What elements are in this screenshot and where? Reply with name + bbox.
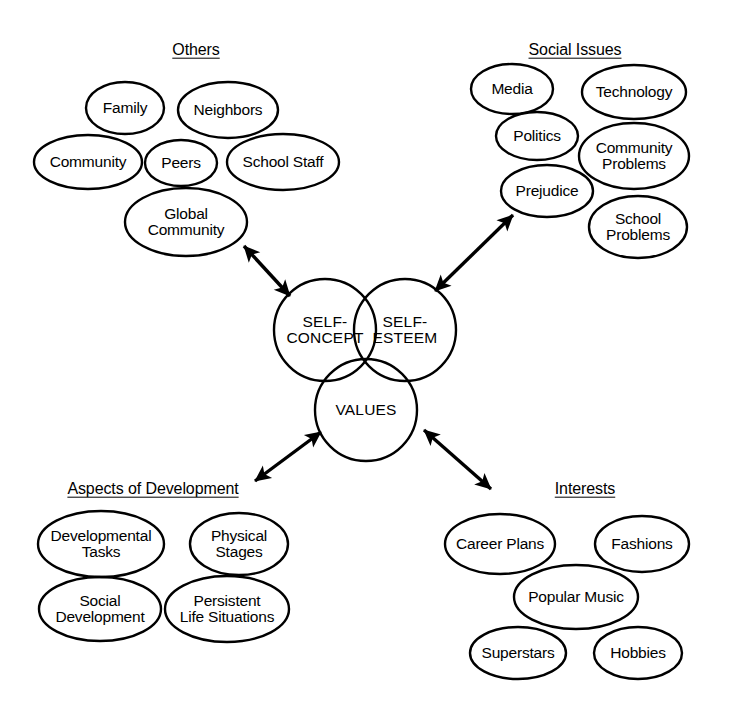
node-ellipse-neighbors[interactable] — [178, 82, 278, 138]
node-ellipse-school-problems[interactable] — [589, 196, 687, 258]
node-ellipse-career-plans[interactable] — [445, 514, 555, 574]
node-ellipse-fashions[interactable] — [595, 516, 689, 572]
node-ellipse-social-development[interactable] — [39, 577, 161, 641]
node-ellipse-technology[interactable] — [582, 65, 686, 119]
node-ellipse-politics[interactable] — [496, 112, 578, 160]
node-ellipse-popular-music[interactable] — [514, 565, 638, 629]
core-circle-self-esteem[interactable] — [354, 279, 456, 381]
node-ellipse-persistent-life-situations[interactable] — [165, 576, 289, 642]
node-ellipse-school-staff[interactable] — [227, 134, 339, 190]
arrow-others — [244, 246, 290, 296]
connector-arrows-group — [244, 215, 513, 489]
node-ellipse-family[interactable] — [86, 82, 164, 134]
node-ellipse-media[interactable] — [471, 64, 553, 114]
arrow-interests — [424, 430, 491, 489]
node-ellipse-peers[interactable] — [145, 140, 217, 186]
core-circle-values[interactable] — [315, 359, 417, 461]
node-ellipse-community[interactable] — [34, 135, 142, 189]
node-ellipse-physical-stages[interactable] — [190, 513, 288, 575]
node-ellipse-prejudice[interactable] — [501, 165, 593, 217]
arrow-aspects — [255, 432, 321, 481]
node-ellipse-community-problems[interactable] — [579, 123, 689, 189]
diagram-canvas — [0, 0, 732, 718]
arrow-social-issues — [435, 215, 513, 291]
node-ellipse-global-community[interactable] — [125, 188, 247, 256]
cluster-ellipses-group — [34, 64, 689, 679]
concept-map-diagram: SELF- CONCEPTSELF- ESTEEMVALUESOthersFam… — [0, 0, 732, 718]
node-ellipse-developmental-tasks[interactable] — [38, 511, 164, 577]
node-ellipse-hobbies[interactable] — [594, 627, 682, 679]
node-ellipse-superstars[interactable] — [470, 627, 566, 679]
